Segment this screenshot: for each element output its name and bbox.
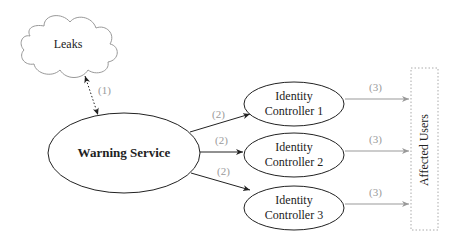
edge-label-2a: (2) <box>212 108 225 121</box>
edge-ws-controller-2: (2) <box>200 134 243 152</box>
identity-controller-2-node: Identity Controller 2 <box>244 133 344 177</box>
edge-controller-2-users: (3) <box>345 133 409 151</box>
controller-3-line1: Identity <box>275 193 312 207</box>
warning-service-node: Warning Service <box>48 113 200 193</box>
edge-controller-3-users: (3) <box>345 186 409 204</box>
edge-controller-1-users: (3) <box>345 81 409 99</box>
identity-controller-3-node: Identity Controller 3 <box>244 186 344 230</box>
edge-label-3a: (3) <box>369 81 382 94</box>
edge-leaks-warning: (1) <box>85 76 111 115</box>
affected-users-label: Affected Users <box>417 114 431 186</box>
controller-1-line2: Controller 1 <box>265 104 323 118</box>
controller-1-line1: Identity <box>275 89 312 103</box>
edge-ws-controller-3: (2) <box>191 165 250 190</box>
leaks-label: Leaks <box>54 37 83 51</box>
diagram-canvas: Leaks (1) Warning Service (2) (2) (2) Id… <box>0 0 455 243</box>
controller-3-line2: Controller 3 <box>265 208 323 222</box>
warning-service-label: Warning Service <box>78 145 171 160</box>
edge-label-3b: (3) <box>369 133 382 146</box>
edge-label-1: (1) <box>98 84 111 97</box>
edge-ws-controller-1: (2) <box>190 108 250 132</box>
affected-users-node: Affected Users <box>411 68 438 230</box>
edge-label-2c: (2) <box>217 165 230 178</box>
identity-controller-1-node: Identity Controller 1 <box>244 82 344 126</box>
edge-label-2b: (2) <box>215 134 228 147</box>
controller-2-line1: Identity <box>275 140 312 154</box>
controller-2-line2: Controller 2 <box>265 155 323 169</box>
leaks-cloud-node: Leaks <box>21 16 117 78</box>
edge-label-3c: (3) <box>369 186 382 199</box>
